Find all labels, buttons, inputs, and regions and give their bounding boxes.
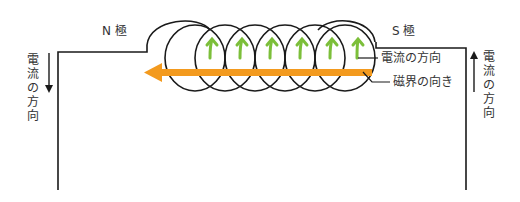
current-direction-label: 電流の方向 xyxy=(381,52,441,64)
left-current-arrow-icon xyxy=(45,53,53,93)
right-current-arrow-icon xyxy=(470,51,478,92)
right-current-direction-label: 電流の方向 xyxy=(482,50,496,120)
coil xyxy=(147,21,375,91)
magnetic-field-direction-label: 磁界の向き xyxy=(393,76,453,88)
left-wire xyxy=(58,45,147,190)
left-current-direction-label: 電流の方向 xyxy=(26,53,40,123)
north-pole-label: N 極 xyxy=(102,25,127,37)
south-pole-label: S 極 xyxy=(392,25,415,37)
solenoid-diagram xyxy=(0,0,520,202)
